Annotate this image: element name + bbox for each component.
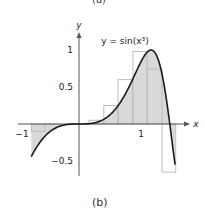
top-caption: (a) (92, 0, 106, 5)
x-tick-label: −1 (15, 129, 28, 139)
area-under-curve (31, 50, 175, 165)
riemann-sum-chart: xyy = sin(x³)−1110.5−0.5 (0, 0, 205, 220)
x-axis-arrow-icon (184, 122, 190, 127)
y-axis-arrow-icon (77, 32, 82, 38)
y-tick-label: −0.5 (51, 156, 73, 166)
y-tick-label: 1 (67, 45, 73, 55)
function-label: y = sin(x³) (101, 36, 148, 46)
y-tick-label: 0.5 (59, 82, 73, 92)
x-tick-label: 1 (138, 129, 144, 139)
x-axis-label: x (192, 119, 199, 129)
figure-caption: (b) (92, 196, 108, 209)
y-axis-label: y (75, 20, 82, 30)
